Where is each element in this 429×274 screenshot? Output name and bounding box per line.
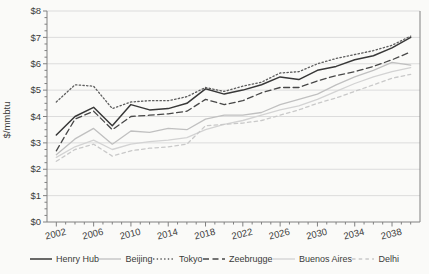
legend-label-tokyo: Tokyo (179, 254, 203, 264)
y-tick-label-8: $8 (30, 5, 41, 16)
x-tick-label-2030: 2030 (305, 226, 328, 242)
x-tick-label-2026: 2026 (268, 226, 291, 242)
y-tick-label-4: $4 (30, 111, 41, 122)
y-tick-label-1: $1 (30, 190, 41, 201)
legend-swatch-zeebrugge (203, 255, 225, 263)
legend-item-henry-hub: Henry Hub (30, 254, 99, 264)
y-tick-label-0: $0 (30, 216, 41, 227)
legend-label-henry-hub: Henry Hub (56, 254, 99, 264)
x-tick-label-2022: 2022 (230, 226, 253, 242)
legend-item-buenos-aires: Buenos Aires (273, 254, 352, 264)
legend-swatch-delhi (352, 255, 374, 263)
legend-label-delhi: Delhi (378, 254, 399, 264)
price-forecast-chart: $/mmbtu $0$1$2$3$4$5$6$7$820022006201020… (0, 0, 429, 248)
x-tick-label-2006: 2006 (81, 226, 104, 242)
legend: Henry HubBeijingTokyoZeebruggeBuenos Air… (0, 250, 429, 268)
legend-swatch-tokyo (153, 255, 175, 263)
price-forecast-chart-container: $/mmbtu $0$1$2$3$4$5$6$7$820022006201020… (0, 0, 429, 274)
legend-item-beijing: Beijing (99, 254, 152, 264)
x-tick-label-2002: 2002 (44, 226, 67, 242)
legend-item-tokyo: Tokyo (153, 254, 203, 264)
series-line-buenos-aires (56, 68, 410, 158)
y-tick-label-7: $7 (30, 32, 41, 43)
x-tick-label-2018: 2018 (193, 226, 216, 242)
series-line-tokyo (56, 36, 410, 109)
series-line-henry-hub (56, 37, 410, 135)
y-axis-title: $/mmbtu (1, 102, 12, 139)
legend-swatch-buenos-aires (273, 255, 295, 263)
legend-swatch-beijing (99, 255, 121, 263)
legend-swatch-henry-hub (30, 255, 52, 263)
legend-label-zeebrugge: Zeebrugge (229, 254, 273, 264)
legend-label-beijing: Beijing (125, 254, 152, 264)
legend-label-buenos-aires: Buenos Aires (299, 254, 352, 264)
x-tick-label-2010: 2010 (118, 226, 141, 242)
x-tick-label-2038: 2038 (380, 226, 403, 242)
x-tick-label-2014: 2014 (156, 226, 179, 242)
y-tick-label-5: $5 (30, 84, 41, 95)
series-line-beijing (56, 62, 410, 154)
legend-item-delhi: Delhi (352, 254, 399, 264)
y-tick-label-2: $2 (30, 163, 41, 174)
legend-item-zeebrugge: Zeebrugge (203, 254, 273, 264)
y-tick-label-6: $6 (30, 58, 41, 69)
y-tick-label-3: $3 (30, 137, 41, 148)
x-tick-label-2034: 2034 (342, 226, 365, 242)
series-line-zeebrugge (56, 52, 410, 151)
